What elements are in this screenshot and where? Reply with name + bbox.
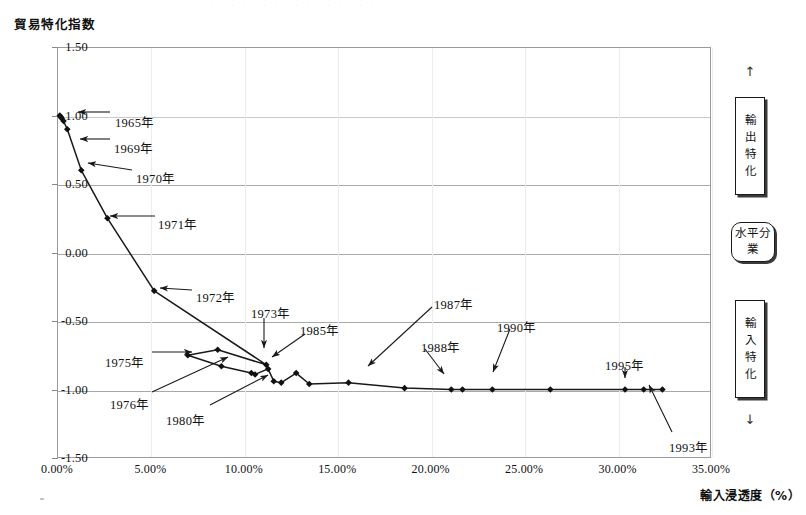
year-annotation-label: 1972年	[196, 287, 236, 306]
year-annotation-label: 1971年	[158, 214, 198, 233]
year-annotation-label: 1987年	[434, 294, 474, 313]
x-axis-title: 輸入浸透度（%）	[700, 486, 800, 503]
y-tick-label: -0.50	[28, 314, 88, 329]
y-tick-mark	[52, 184, 58, 185]
year-annotation-label: 1993年	[669, 437, 709, 456]
gridline	[58, 322, 710, 323]
y-tick-mark	[52, 47, 58, 48]
y-tick-mark	[52, 253, 58, 254]
year-annotation-label: 1969年	[114, 138, 154, 157]
y-tick-mark	[52, 458, 58, 459]
year-annotation-label: 1975年	[105, 352, 145, 371]
y-tick-mark	[52, 321, 58, 322]
y-tick-label: 0.50	[28, 177, 88, 192]
horizontal-division-box: 水平分 業	[731, 222, 775, 262]
x-gridline	[151, 48, 152, 457]
x-tick-label: 30.00%	[583, 462, 653, 477]
year-annotation-label: 1965年	[115, 112, 155, 131]
x-tick-label: 35.00%	[676, 462, 746, 477]
x-tick-label: 10.00%	[209, 462, 279, 477]
x-tick-label: 25.00%	[489, 462, 559, 477]
x-gridline	[245, 48, 246, 457]
x-tick-label: 5.00%	[115, 462, 185, 477]
y-tick-mark	[52, 390, 58, 391]
x-tick-label: 15.00%	[302, 462, 372, 477]
gridline	[58, 391, 710, 392]
x-tick-label: 0.00%	[22, 462, 92, 477]
import-specialization-box: 輸入特化	[735, 300, 765, 398]
down-arrow-icon: ↓	[738, 412, 762, 427]
y-tick-label: 1.00	[28, 108, 88, 123]
scan-speck	[40, 498, 44, 500]
x-gridline	[432, 48, 433, 457]
year-annotation-label: 1988年	[421, 337, 461, 356]
y-tick-label: 1.50	[28, 40, 88, 55]
x-gridline	[338, 48, 339, 457]
year-annotation-label: 1995年	[605, 355, 645, 374]
x-gridline	[525, 48, 526, 457]
x-tick-label: 20.00%	[396, 462, 466, 477]
up-arrow-icon: ↑	[738, 64, 762, 79]
chart-page: · · · · · · · · · · · · · · · · · 貿易特化指数…	[0, 0, 806, 515]
year-annotation-label: 1976年	[110, 394, 150, 413]
year-annotation-label: 1985年	[300, 320, 340, 339]
x-gridline	[712, 48, 713, 457]
export-specialization-box: 輸出特化	[735, 97, 765, 195]
scan-artifact-strip: · · · · · · · · · · · · · · · · ·	[210, 1, 640, 8]
year-annotation-label: 1970年	[136, 168, 176, 187]
y-tick-mark	[52, 116, 58, 117]
horizontal-division-line1: 水平分	[735, 226, 771, 242]
x-gridline	[619, 48, 620, 457]
y-tick-label: -1.00	[28, 382, 88, 397]
plot-area	[57, 47, 711, 458]
horizontal-division-line2: 業	[747, 242, 759, 258]
year-annotation-label: 1980年	[166, 410, 206, 429]
year-annotation-label: 1973年	[251, 303, 291, 322]
gridline	[58, 117, 710, 118]
year-annotation-label: 1990年	[497, 317, 537, 336]
gridline	[58, 254, 710, 255]
y-tick-label: 0.00	[28, 245, 88, 260]
y-axis-title: 貿易特化指数	[14, 14, 95, 33]
